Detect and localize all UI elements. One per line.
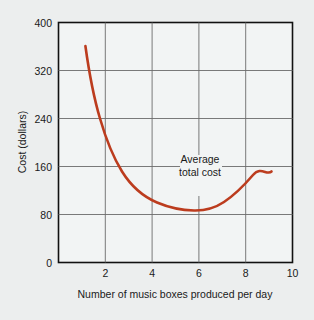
x-tick-label-4: 4 bbox=[149, 267, 155, 279]
y-tick-label-320: 320 bbox=[34, 65, 52, 77]
x-tick-label-8: 8 bbox=[243, 267, 249, 279]
chart-figure: Average total cost 400 320 240 160 80 0 … bbox=[0, 0, 314, 320]
x-tick-label-10: 10 bbox=[287, 267, 299, 279]
y-tick-label-0: 0 bbox=[46, 257, 52, 269]
plot-area-frame bbox=[59, 23, 293, 263]
annotation-line-1: Average bbox=[181, 153, 220, 165]
x-tick-label-2: 2 bbox=[102, 267, 108, 279]
cost-curve-chart: Average total cost 400 320 240 160 80 0 … bbox=[0, 0, 314, 320]
y-axis-title: Cost (dollars) bbox=[16, 111, 28, 173]
y-tick-label-160: 160 bbox=[34, 161, 52, 173]
x-axis-title: Number of music boxes produced per day bbox=[78, 288, 274, 300]
y-tick-label-400: 400 bbox=[34, 17, 52, 29]
annotation-line-2: total cost bbox=[179, 166, 221, 178]
y-tick-label-80: 80 bbox=[40, 209, 52, 221]
x-tick-label-6: 6 bbox=[196, 267, 202, 279]
y-tick-label-240: 240 bbox=[34, 113, 52, 125]
